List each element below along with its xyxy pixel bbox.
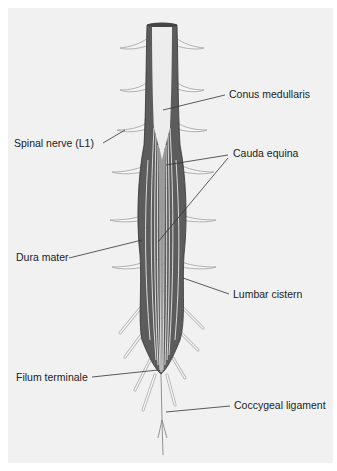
label-cauda-equina: Cauda equina	[233, 147, 298, 159]
label-conus-medullaris: Conus medullaris	[229, 88, 310, 100]
label-coccygeal-ligament: Coccygeal ligament	[234, 399, 326, 411]
label-lumbar-cistern: Lumbar cistern	[233, 288, 302, 300]
label-spinal-nerve-l1: Spinal nerve (L1)	[14, 137, 94, 149]
label-filum-terminale: Filum terminale	[16, 371, 88, 383]
filum-terminale-line	[158, 374, 167, 455]
label-dura-mater: Dura mater	[16, 251, 69, 263]
